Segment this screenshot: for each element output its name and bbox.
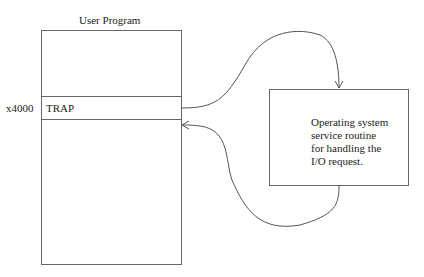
trap-instruction: TRAP xyxy=(46,102,74,115)
user-program-box xyxy=(42,31,182,265)
trap-call-arrow xyxy=(182,31,339,108)
user-program-title: User Program xyxy=(79,14,140,27)
routine-line-1: Operating system xyxy=(311,116,388,129)
trap-address-label: x4000 xyxy=(6,102,34,115)
routine-line-3: for handling the xyxy=(311,142,381,155)
routine-line-2: service routine xyxy=(311,129,376,142)
routine-line-4: I/O request. xyxy=(311,155,363,168)
